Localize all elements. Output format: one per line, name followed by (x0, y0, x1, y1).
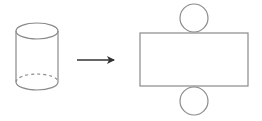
cylinder-shape (16, 23, 58, 90)
net-bottom-circle (180, 87, 208, 115)
cylinder-net-diagram (0, 0, 262, 121)
diagram-svg (0, 0, 262, 121)
cylinder-bottom-back-arc-dashed (16, 74, 58, 82)
net-top-circle (180, 4, 208, 32)
cylinder-net (140, 4, 248, 115)
net-rectangle (140, 33, 248, 86)
cylinder-bottom-front-arc (16, 82, 58, 90)
cylinder-top-ellipse (16, 23, 58, 39)
